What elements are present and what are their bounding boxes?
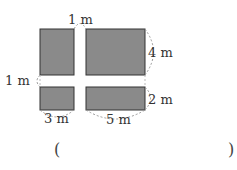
label-right-upper: 4 m — [148, 46, 173, 59]
label-bottom-right: 5 m — [106, 113, 131, 126]
plot-bottom-right — [86, 87, 145, 110]
label-bottom-left: 3 m — [44, 112, 69, 125]
answer-close-paren: ) — [228, 142, 234, 158]
plot-top-left — [40, 29, 74, 75]
field-diagram — [0, 0, 237, 170]
label-left-road: 1 m — [5, 74, 30, 87]
label-top-road: 1 m — [68, 13, 93, 26]
plot-bottom-left — [40, 87, 74, 110]
label-right-lower: 2 m — [148, 93, 173, 106]
plot-top-right — [86, 29, 145, 75]
answer-open-paren: ( — [54, 142, 60, 158]
